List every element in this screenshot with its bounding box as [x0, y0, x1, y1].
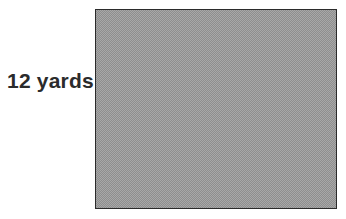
dimension-label-left: 12 yards — [7, 66, 91, 94]
shaded-rectangle — [95, 9, 337, 209]
rectangle-interior-label — [96, 10, 336, 208]
figure-canvas: 12 yards — [0, 0, 346, 219]
